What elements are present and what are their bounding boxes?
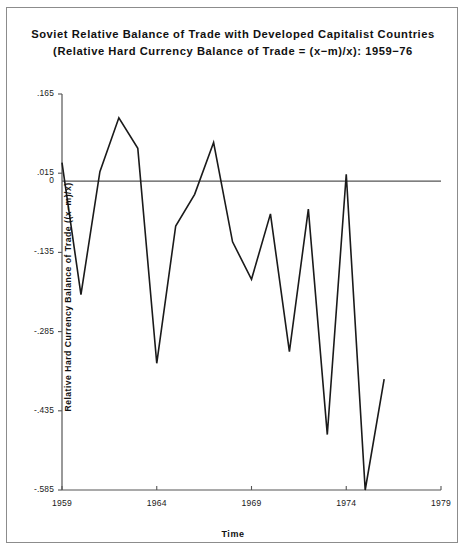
y-tick-label-6: -.585 (8, 484, 54, 494)
y-tick-label-4: -.285 (8, 326, 54, 336)
y-axis-title: Relative Hard Currency Balance of Trade … (63, 147, 73, 447)
y-tick-label-3: -.135 (8, 246, 54, 256)
x-axis-title: Time (0, 529, 466, 539)
chart-figure: Soviet Relative Balance of Trade with De… (0, 0, 466, 557)
x-tick-label-1: 1964 (134, 498, 180, 508)
x-tick-label-0: 1959 (39, 498, 85, 508)
y-tick-label-5: -.435 (8, 405, 54, 415)
x-tick-label-2: 1969 (229, 498, 275, 508)
data-series-line (62, 118, 384, 490)
y-tick-label-2: 0 (8, 175, 54, 185)
plot-area: .165.0150-.135-.285-.435-.585 1959196419… (0, 0, 466, 557)
y-tick-label-0: .165 (8, 88, 54, 98)
x-tick-label-3: 1974 (323, 498, 369, 508)
data-line (62, 118, 384, 490)
x-tick-label-4: 1979 (418, 498, 464, 508)
axes-group (58, 94, 441, 490)
